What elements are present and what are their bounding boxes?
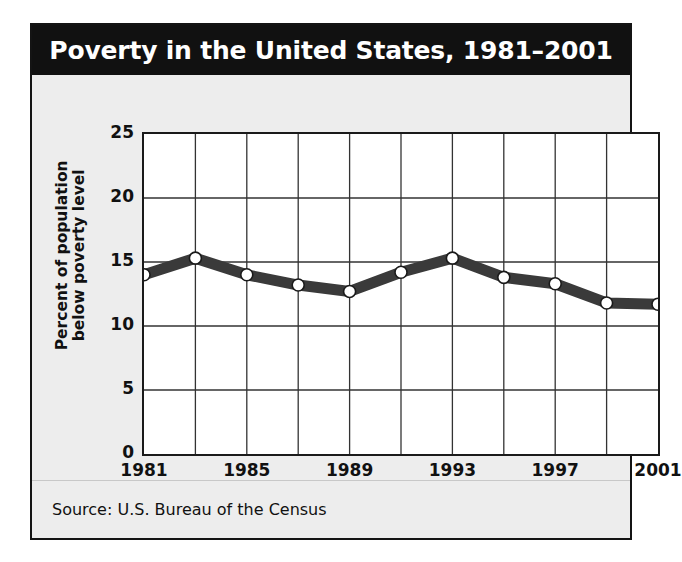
page-title: Poverty in the United States, 1981–2001 bbox=[49, 36, 612, 65]
plot-area bbox=[142, 132, 660, 456]
x-tick-1997: 1997 bbox=[532, 460, 579, 480]
chart-title-bar: Poverty in the United States, 1981–2001 bbox=[32, 25, 630, 75]
y-axis-label: Percent of population below poverty leve… bbox=[48, 75, 94, 435]
x-tick-1985: 1985 bbox=[223, 460, 270, 480]
y-tick-20: 20 bbox=[100, 186, 134, 206]
y-axis-label-line2: below poverty level bbox=[70, 169, 88, 341]
x-gridlines bbox=[195, 134, 606, 454]
chart-footer: Source: U.S. Bureau of the Census bbox=[32, 481, 630, 538]
source-note: Source: U.S. Bureau of the Census bbox=[52, 500, 327, 519]
x-tick-1981: 1981 bbox=[120, 460, 167, 480]
y-tick-5: 5 bbox=[100, 378, 134, 398]
y-tick-25: 25 bbox=[100, 122, 134, 142]
y-tick-0: 0 bbox=[100, 442, 134, 462]
y-axis-tick-labels: 0510152025 bbox=[94, 75, 134, 480]
y-tick-10: 10 bbox=[100, 314, 134, 334]
x-tick-1989: 1989 bbox=[326, 460, 373, 480]
chart-figure: Poverty in the United States, 1981–2001 … bbox=[30, 23, 632, 540]
chart-canvas bbox=[144, 134, 658, 454]
x-tick-2001: 2001 bbox=[634, 460, 681, 480]
y-tick-15: 15 bbox=[100, 250, 134, 270]
x-tick-1993: 1993 bbox=[429, 460, 476, 480]
y-axis-label-line1: Percent of population bbox=[53, 160, 71, 350]
chart-body: Percent of population below poverty leve… bbox=[32, 75, 630, 480]
